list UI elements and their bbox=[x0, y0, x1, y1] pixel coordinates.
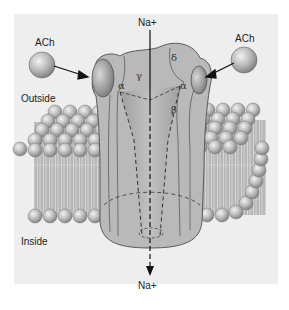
inside-label: Inside bbox=[21, 236, 48, 247]
na-label-bottom: Na+ bbox=[138, 280, 157, 291]
receptor-protein bbox=[92, 43, 212, 248]
ach-label-left: ACh bbox=[35, 37, 54, 48]
ach-molecule-left bbox=[29, 52, 55, 78]
ach-label-right: ACh bbox=[235, 33, 254, 44]
subunit-alpha-right: α bbox=[180, 80, 187, 91]
outside-label: Outside bbox=[21, 93, 55, 104]
ach-molecule-right bbox=[231, 47, 257, 73]
binding-site-right bbox=[191, 66, 207, 94]
subunit-alpha-left: α bbox=[118, 80, 125, 91]
subunit-gamma: γ bbox=[136, 70, 142, 81]
subunit-delta: δ bbox=[171, 52, 177, 63]
binding-site-left bbox=[92, 59, 114, 97]
na-label-top: Na+ bbox=[138, 17, 157, 28]
subunit-beta: β bbox=[171, 104, 177, 115]
